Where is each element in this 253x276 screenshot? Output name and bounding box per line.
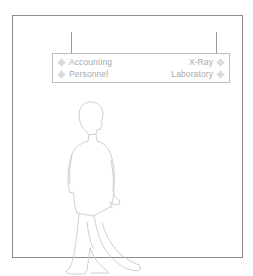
move-arrows-icon — [216, 58, 225, 67]
walking-man-outline — [53, 96, 168, 276]
menu-item-accounting[interactable]: Accounting — [57, 56, 112, 68]
clipped-header-text — [6, 0, 246, 5]
diagram-frame: Accounting X-Ray — [12, 15, 243, 258]
menu-item-label: Personnel — [69, 68, 108, 80]
menu-row: Personnel Laboratory — [57, 68, 225, 80]
move-arrows-icon — [57, 58, 66, 67]
menu-item-label: Laboratory — [171, 68, 213, 80]
menu-row: Accounting X-Ray — [57, 56, 225, 68]
move-arrows-icon — [216, 70, 225, 79]
connector-line-right — [216, 32, 217, 54]
move-arrows-icon — [57, 70, 66, 79]
menu-item-x-ray[interactable]: X-Ray — [189, 56, 225, 68]
connector-line-left — [71, 32, 72, 54]
menu-item-label: X-Ray — [189, 56, 213, 68]
menu-item-personnel[interactable]: Personnel — [57, 68, 108, 80]
menu-item-laboratory[interactable]: Laboratory — [171, 68, 225, 80]
department-menu-box: Accounting X-Ray — [52, 53, 230, 83]
menu-item-label: Accounting — [69, 56, 112, 68]
